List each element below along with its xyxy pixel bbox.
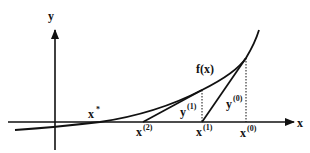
svg-text:(2): (2) xyxy=(143,123,153,132)
svg-text:x: x xyxy=(240,126,246,140)
svg-text:*: * xyxy=(96,105,100,114)
svg-text:x: x xyxy=(88,107,94,121)
newton-method-diagram: y x f(x) x * x (2) x (1) x (0) y (1) y (… xyxy=(0,0,310,153)
svg-text:y: y xyxy=(226,97,232,111)
y0-label: y (0) xyxy=(226,94,243,111)
x0-label: x (0) xyxy=(240,124,257,140)
x1-label: x (1) xyxy=(196,123,213,139)
svg-text:(0): (0) xyxy=(247,124,257,133)
svg-text:x: x xyxy=(196,125,202,139)
svg-text:(1): (1) xyxy=(187,102,197,111)
x2-label: x (2) xyxy=(136,123,153,139)
x-axis-label: x xyxy=(297,116,303,130)
svg-text:y: y xyxy=(180,105,186,119)
function-curve xyxy=(15,30,259,130)
svg-text:(1): (1) xyxy=(203,123,213,132)
svg-text:(0): (0) xyxy=(233,94,243,103)
curve-label: f(x) xyxy=(196,62,214,76)
root-label: x * xyxy=(88,105,100,121)
svg-text:x: x xyxy=(136,125,142,139)
y-axis-label: y xyxy=(48,9,54,23)
y1-label: y (1) xyxy=(180,102,197,119)
